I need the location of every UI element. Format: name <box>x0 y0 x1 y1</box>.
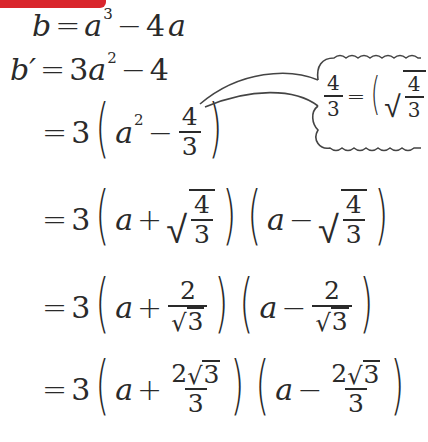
denominator: 3 <box>324 95 343 121</box>
fraction: 4 3 <box>324 71 343 121</box>
numerator: 4 <box>324 71 343 95</box>
denominator: 3 <box>405 96 424 122</box>
radical-icon: √ <box>384 92 400 122</box>
square-root: √ 4 3 <box>384 70 427 122</box>
numerator: 4 <box>405 72 424 96</box>
equals-sign: = <box>347 84 365 109</box>
left-paren-icon: ( <box>371 72 380 116</box>
callout-content: 4 3 = ( √ 4 3 <box>322 70 428 122</box>
fraction: 4 3 <box>403 70 426 122</box>
